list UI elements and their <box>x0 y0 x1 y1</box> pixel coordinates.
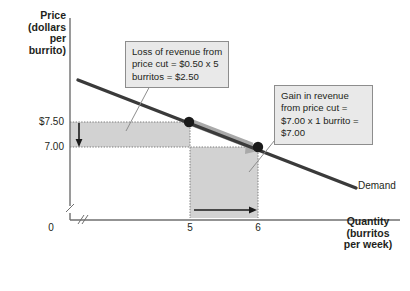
loss-callout: Loss of revenue from price cut = $0.50 x… <box>125 41 229 88</box>
quantity-tick-5: 5 <box>183 222 197 233</box>
demand-curve-label: Demand <box>358 180 396 191</box>
gain-callout: Gain in revenue from price cut = $7.00 x… <box>274 85 373 145</box>
price-axis-title: Price (dollars per burrito) <box>4 10 66 56</box>
point-initial <box>184 117 194 127</box>
price-tick-700: 7.00 <box>18 141 64 152</box>
quantity-tick-6: 6 <box>251 222 265 233</box>
gain-in-revenue-region <box>190 147 258 218</box>
price-tick-750: $7.50 <box>18 116 64 127</box>
quantity-axis-title: Quantity (burritos per week) <box>330 216 406 251</box>
loss-of-revenue-region <box>70 122 190 147</box>
demand-curve-figure: Price (dollars per burrito) Quantity (bu… <box>0 0 410 291</box>
point-after-price-cut <box>253 142 263 152</box>
origin-label: 0 <box>44 222 58 233</box>
